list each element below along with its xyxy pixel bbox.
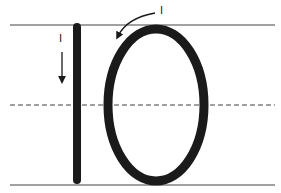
stroke-label-zero: I [160, 4, 163, 16]
handwriting-diagram: I I [0, 0, 281, 193]
stroke-label-one: I [59, 32, 62, 44]
diagram-canvas [0, 0, 281, 193]
